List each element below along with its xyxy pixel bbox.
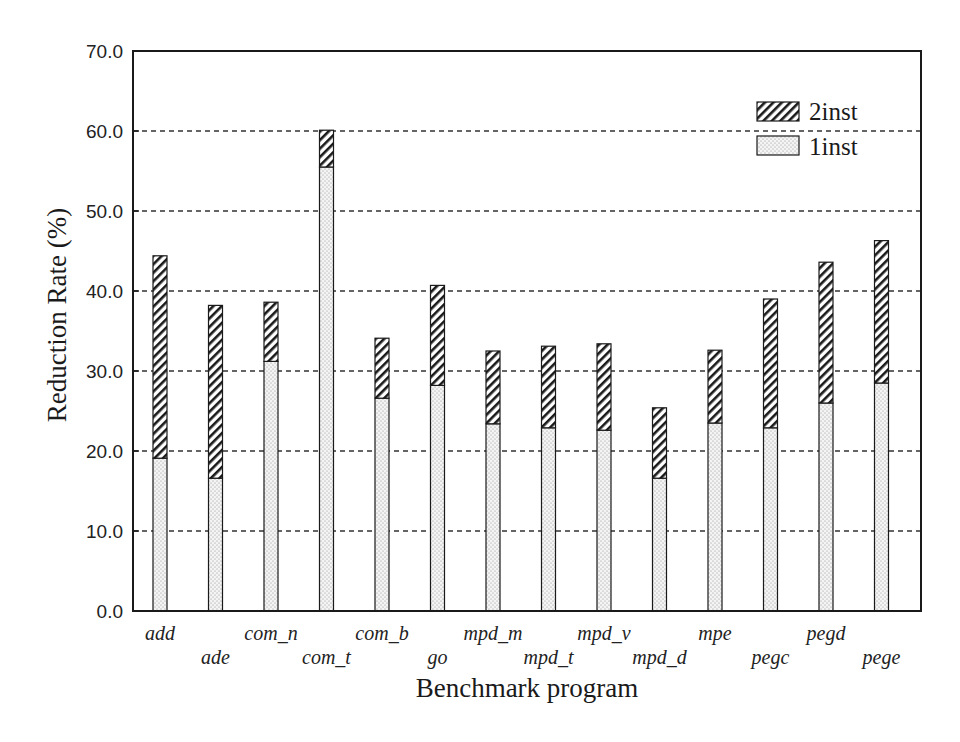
x-tick-label: mpd_m	[464, 622, 523, 645]
legend-label-2inst: 2inst	[809, 98, 858, 125]
bar-go	[431, 285, 445, 611]
bar-segment-1inst	[542, 428, 556, 611]
x-tick-label: mpe	[698, 622, 731, 645]
bar-segment-1inst	[209, 478, 223, 611]
y-tick-label: 50.0	[86, 201, 123, 222]
bar-segment-2inst	[819, 262, 833, 403]
x-tick-label: pegc	[750, 646, 790, 669]
bar-segment-2inst	[431, 285, 445, 385]
y-tick-label: 0.0	[97, 601, 123, 622]
bar-segment-2inst	[264, 302, 278, 361]
bar-add	[153, 256, 167, 611]
bar-mpd_v	[597, 344, 611, 611]
x-tick-label: go	[428, 646, 448, 669]
x-axis-tick-labels: addadecom_ncom_tcom_bgompd_mmpd_tmpd_vmp…	[145, 622, 900, 669]
y-tick-label: 40.0	[86, 281, 123, 302]
x-tick-label: pegd	[805, 622, 847, 645]
bar-mpd_t	[542, 346, 556, 611]
bar-ade	[209, 305, 223, 611]
stacked-bar-chart: 0.010.020.030.040.050.060.070.0 addadeco…	[0, 0, 960, 742]
x-tick-label: com_n	[244, 622, 297, 644]
y-tick-label: 60.0	[86, 121, 123, 142]
y-tick-label: 20.0	[86, 441, 123, 462]
x-tick-label: mpd_v	[577, 622, 630, 645]
bar-com_n	[264, 302, 278, 611]
bar-segment-1inst	[264, 361, 278, 611]
bar-segment-1inst	[597, 430, 611, 611]
x-tick-label: com_t	[302, 646, 351, 668]
legend-swatch-2inst	[757, 102, 799, 121]
legend-swatch-1inst	[757, 136, 799, 155]
bar-segment-1inst	[819, 403, 833, 611]
bar-segment-2inst	[764, 299, 778, 428]
bar-segment-2inst	[486, 351, 500, 424]
legend-label-1inst: 1inst	[809, 133, 858, 160]
bar-mpd_d	[653, 408, 667, 611]
bar-com_t	[320, 130, 334, 611]
bar-segment-1inst	[653, 478, 667, 611]
bar-pegd	[819, 262, 833, 611]
bar-segment-2inst	[653, 408, 667, 478]
bar-segment-2inst	[209, 305, 223, 478]
bar-segment-2inst	[542, 346, 556, 428]
x-tick-label: ade	[201, 646, 230, 668]
bar-segment-2inst	[320, 130, 334, 167]
x-tick-label: mpd_t	[524, 646, 574, 669]
y-tick-label: 10.0	[86, 521, 123, 542]
y-axis-title: Reduction Rate (%)	[42, 208, 72, 422]
legend: 2inst 1inst	[757, 98, 858, 160]
x-axis-title: Benchmark program	[416, 673, 639, 703]
bar-pege	[875, 241, 889, 611]
bar-segment-2inst	[708, 350, 722, 423]
bar-segment-1inst	[708, 423, 722, 611]
bar-segment-2inst	[875, 241, 889, 383]
bar-segment-1inst	[486, 424, 500, 611]
bar-segment-2inst	[153, 256, 167, 458]
gridlines	[133, 131, 921, 531]
x-tick-label: pege	[861, 646, 901, 669]
bar-segment-1inst	[764, 428, 778, 611]
y-tick-label: 70.0	[86, 41, 123, 62]
x-tick-label: mpd_d	[632, 646, 687, 669]
bar-mpe	[708, 350, 722, 611]
bar-com_b	[375, 338, 389, 611]
bar-segment-1inst	[153, 458, 167, 611]
plot-frame	[133, 51, 921, 611]
bar-mpd_m	[486, 351, 500, 611]
bar-segment-1inst	[875, 383, 889, 611]
x-tick-label: com_b	[355, 622, 408, 644]
bar-segment-2inst	[375, 338, 389, 398]
y-axis-ticks: 0.010.020.030.040.050.060.070.0	[86, 41, 139, 622]
bar-segment-1inst	[431, 385, 445, 611]
bar-segment-1inst	[375, 398, 389, 611]
x-tick-label: add	[145, 622, 176, 644]
bar-segment-2inst	[597, 344, 611, 430]
bar-pegc	[764, 299, 778, 611]
bar-segment-1inst	[320, 167, 334, 611]
y-tick-label: 30.0	[86, 361, 123, 382]
